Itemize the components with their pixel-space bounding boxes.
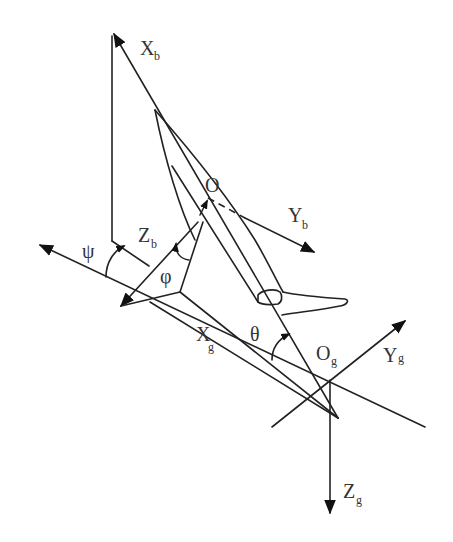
svg-text:Z: Z	[138, 224, 150, 246]
label-xg: X g	[196, 323, 214, 354]
ground-projection-line-2	[150, 302, 338, 418]
yg-axis	[272, 321, 405, 427]
label-og: O g	[316, 342, 337, 368]
label-zb: Z b	[138, 224, 157, 251]
label-psi: ψ	[82, 240, 95, 263]
triangle-base	[121, 292, 180, 306]
zb-axis	[121, 222, 198, 306]
svg-text:Y: Y	[288, 204, 302, 226]
label-phi: φ	[160, 265, 172, 288]
svg-text:b: b	[154, 49, 160, 63]
svg-text:g: g	[398, 351, 404, 365]
svg-text:g: g	[356, 493, 362, 507]
aircraft-coordinate-diagram: X b O Y b Z b ψ φ θ X g O g Y g Z g	[0, 0, 453, 542]
svg-text:b: b	[151, 237, 157, 251]
label-xb: X b	[140, 37, 160, 63]
phi-arc	[176, 244, 189, 260]
aircraft-outline	[155, 110, 347, 315]
svg-text:g: g	[331, 354, 337, 368]
svg-text:X: X	[140, 37, 155, 59]
o-marker-arrow	[200, 201, 207, 215]
svg-text:Y: Y	[383, 344, 397, 366]
label-o: O	[205, 174, 219, 196]
svg-text:g: g	[208, 340, 214, 354]
xg-axis	[40, 245, 425, 427]
psi-arc	[106, 246, 124, 277]
label-yb: Y b	[288, 204, 308, 232]
svg-text:O: O	[316, 342, 330, 364]
label-zg: Z g	[343, 480, 362, 507]
svg-text:Z: Z	[343, 480, 355, 502]
label-yg: Y g	[383, 344, 404, 366]
svg-text:O: O	[205, 174, 219, 196]
svg-text:b: b	[302, 218, 308, 232]
label-theta: θ	[250, 323, 260, 345]
